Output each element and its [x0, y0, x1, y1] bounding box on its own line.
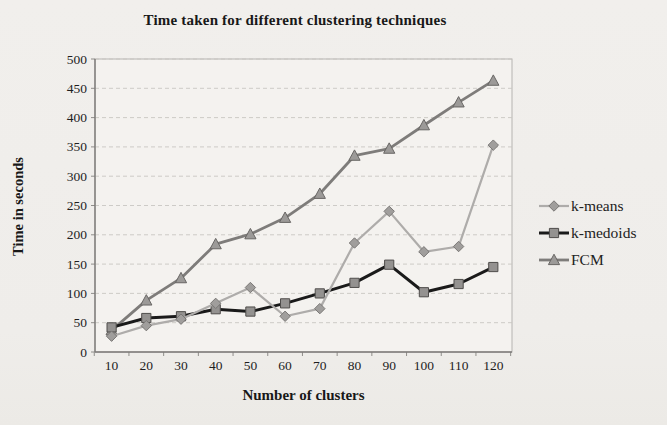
y-axis-label: Time in seconds — [10, 127, 27, 287]
legend-swatch-marker — [549, 228, 558, 237]
y-tick-label: 0 — [80, 345, 87, 360]
marker-square-k-medoids — [419, 288, 428, 297]
x-tick-label: 80 — [348, 358, 362, 373]
marker-square-k-medoids — [489, 262, 498, 271]
k-medoids-line-marker-icon — [538, 226, 570, 240]
y-tick-label: 350 — [67, 139, 88, 154]
y-tick-label: 50 — [74, 315, 88, 330]
legend-item-fcm: FCM — [538, 246, 636, 273]
marker-square-k-medoids — [246, 307, 255, 316]
y-tick-label: 100 — [67, 286, 88, 301]
marker-square-k-medoids — [454, 279, 463, 288]
y-tick-label: 400 — [67, 110, 88, 125]
k-means-line-marker-icon — [538, 199, 570, 213]
legend-swatch-marker — [549, 200, 559, 210]
y-tick-label: 300 — [67, 169, 88, 184]
x-tick-label: 100 — [414, 358, 435, 373]
x-tick-label: 70 — [313, 358, 327, 373]
marker-square-k-medoids — [315, 289, 324, 298]
x-tick-label: 10 — [105, 358, 119, 373]
y-tick-label: 150 — [67, 257, 88, 272]
y-tick-label: 200 — [67, 227, 88, 242]
y-tick-label: 450 — [67, 81, 88, 96]
x-tick-label: 50 — [244, 358, 258, 373]
legend-label-k-medoids: k-medoids — [571, 224, 636, 242]
x-tick-label: 90 — [382, 358, 396, 373]
x-axis-label: Number of clusters — [95, 387, 512, 404]
x-tick-label: 60 — [278, 358, 292, 373]
x-tick-label: 120 — [483, 358, 504, 373]
legend-item-k-means: k-means — [538, 192, 636, 219]
marker-square-k-medoids — [385, 260, 394, 269]
legend-label-k-means: k-means — [571, 197, 624, 215]
marker-square-k-medoids — [281, 299, 290, 308]
fcm-line-marker-icon — [538, 253, 570, 267]
legend: k-means k-medoids FCM — [538, 192, 636, 273]
legend-item-k-medoids: k-medoids — [538, 219, 636, 246]
chart-page: Time taken for different clustering tech… — [0, 0, 667, 425]
x-tick-label: 40 — [209, 358, 223, 373]
x-tick-label: 30 — [174, 358, 188, 373]
y-tick-label: 250 — [67, 198, 88, 213]
x-tick-label: 110 — [449, 358, 469, 373]
legend-label-fcm: FCM — [571, 251, 604, 269]
y-tick-label: 500 — [67, 52, 88, 67]
x-tick-label: 20 — [140, 358, 154, 373]
marker-square-k-medoids — [350, 278, 359, 287]
